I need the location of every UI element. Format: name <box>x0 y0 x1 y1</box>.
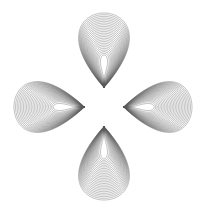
spirograph-figure <box>0 0 207 214</box>
figure-canvas <box>0 0 207 214</box>
